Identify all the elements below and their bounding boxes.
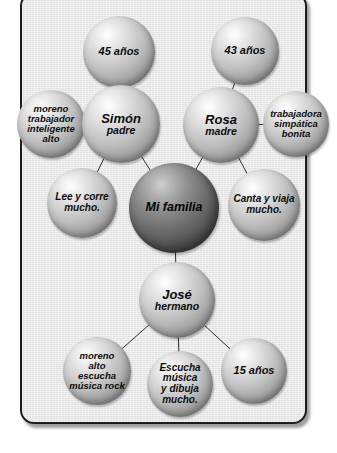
mother-bubble-text: Rosamadre (205, 113, 237, 138)
age-father-bubble[interactable]: 45 años (83, 16, 155, 88)
mother-activities-bubble-line: mucho. (233, 205, 294, 216)
father-bubble-line: Simón (101, 112, 141, 126)
brother-age-bubble[interactable]: 15 años (221, 338, 287, 404)
brother-traits-bubble-text: morenoaltoescuchamúsica rock (69, 351, 124, 391)
brother-activities-bubble-text: Escuchamúsicay dibujamucho. (159, 363, 200, 405)
father-bubble[interactable]: Simónpadre (82, 85, 160, 163)
brother-traits-bubble[interactable]: morenoaltoescuchamúsica rock (63, 337, 131, 405)
brother-traits-bubble-line: música rock (69, 381, 124, 391)
father-activities-bubble-text: Lee y corremucho. (55, 192, 108, 213)
brother-activities-bubble-line: mucho. (159, 395, 200, 406)
mother-traits-bubble[interactable]: trabajadorasimpáticabonita (263, 91, 329, 157)
brother-bubble-line: José (155, 288, 199, 302)
age-mother-bubble[interactable]: 43 años (211, 17, 279, 85)
mother-traits-bubble-line: bonita (270, 129, 322, 139)
age-mother-bubble-line: 43 años (225, 45, 266, 57)
father-bubble-line: padre (101, 125, 141, 136)
age-father-bubble-text: 45 años (99, 46, 140, 58)
father-traits-bubble-text: morenotrabajadorinteligentealto (27, 104, 75, 144)
father-activities-bubble[interactable]: Lee y corremucho. (47, 168, 117, 238)
father-bubble-text: Simónpadre (101, 112, 141, 137)
brother-bubble-line: hermano (155, 301, 199, 312)
brother-activities-bubble[interactable]: Escuchamúsicay dibujamucho. (147, 351, 213, 417)
center-family-bubble-line: Mi familia (146, 201, 203, 214)
father-activities-bubble-line: mucho. (55, 203, 108, 214)
brother-bubble[interactable]: Joséhermano (139, 262, 215, 338)
brother-bubble-text: Joséhermano (155, 288, 199, 313)
age-mother-bubble-text: 43 años (225, 45, 266, 57)
mother-bubble[interactable]: Rosamadre (183, 87, 259, 163)
center-family-bubble-text: Mi familia (146, 201, 203, 214)
mother-activities-bubble-text: Canta y viajamucho. (233, 194, 294, 215)
age-father-bubble-line: 45 años (99, 46, 140, 58)
mother-activities-bubble[interactable]: Canta y viajamucho. (228, 169, 300, 241)
mother-traits-bubble-text: trabajadorasimpáticabonita (270, 109, 322, 139)
center-family-bubble[interactable]: Mi familia (129, 163, 219, 253)
mother-bubble-line: Rosa (205, 113, 237, 127)
brother-age-bubble-text: 15 años (234, 365, 275, 377)
mother-bubble-line: madre (205, 126, 237, 137)
brother-age-bubble-line: 15 años (234, 365, 275, 377)
father-traits-bubble[interactable]: morenotrabajadorinteligentealto (17, 90, 85, 158)
brother-activities-bubble-line: y dibuja (159, 384, 200, 395)
father-traits-bubble-line: alto (27, 134, 75, 144)
